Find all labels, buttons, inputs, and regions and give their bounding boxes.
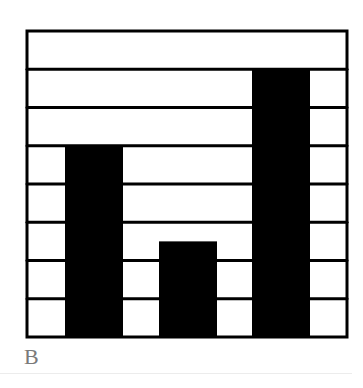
bar-1: [65, 146, 123, 337]
panel-label: B: [24, 344, 39, 370]
bar-3: [252, 69, 310, 337]
bar-chart: [0, 0, 363, 340]
divider: [0, 373, 352, 374]
bars: [65, 69, 310, 337]
bar-2: [159, 241, 217, 337]
